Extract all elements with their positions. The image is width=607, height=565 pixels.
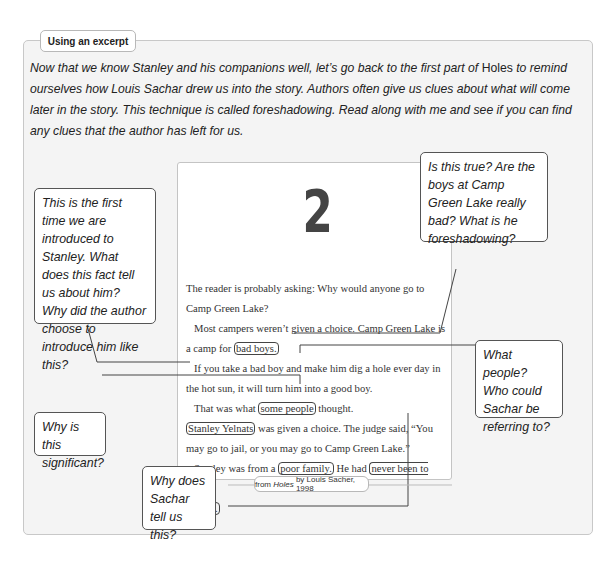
intro-paragraph: Now that we know Stanley and his compani… xyxy=(30,58,585,142)
excerpt-text-span: thought. xyxy=(316,403,354,414)
excerpt-paragraph: The reader is probably asking: Why would… xyxy=(186,279,448,319)
source-prefix: from xyxy=(255,480,271,489)
highlight-some-people: some people xyxy=(258,402,315,415)
highlight-bad-boys: bad boys. xyxy=(234,342,279,355)
source-citation: from Holes by Louis Sacher, 1998 xyxy=(254,476,369,492)
callout-why-does-sachar: Why does Sachar tell us this? xyxy=(142,466,216,530)
chapter-number: 2 xyxy=(287,177,347,247)
excerpt-text-span: He had xyxy=(334,463,370,474)
source-suffix: by Louis Sacher, 1998 xyxy=(296,475,368,493)
excerpt-paragraph: Stanley Yelnats was given a choice. The … xyxy=(186,419,448,459)
excerpt-paragraph: That was what some people thought. xyxy=(186,399,448,419)
excerpt-paragraph: Most campers weren’t given a choice. Cam… xyxy=(186,319,448,359)
highlight-stanley-yelnats: Stanley Yelnats xyxy=(186,422,255,435)
excerpt-paragraph: before. xyxy=(186,499,448,519)
excerpt-text-span: That was what xyxy=(194,403,258,414)
excerpt-paragraph: If you take a bad boy and make him dig a… xyxy=(186,359,448,399)
callout-why-significant: Why is this significant? xyxy=(34,412,106,456)
callout-first-time: This is the first time we are introduced… xyxy=(34,188,156,324)
excerpt-text-span: Most campers weren’t given a choice. Cam… xyxy=(186,323,445,354)
callout-is-this-true: Is this true? Are the boys at Camp Green… xyxy=(420,152,548,242)
intro-text-1: Now that we know Stanley and his compani… xyxy=(30,61,482,75)
callout-what-people: What people? Who could Sachar be referri… xyxy=(475,340,563,418)
section-label: Using an excerpt xyxy=(40,30,136,52)
book-title: Holes xyxy=(482,61,513,75)
source-title: Holes xyxy=(273,480,293,489)
highlight-poor-family: poor family. xyxy=(278,462,334,475)
